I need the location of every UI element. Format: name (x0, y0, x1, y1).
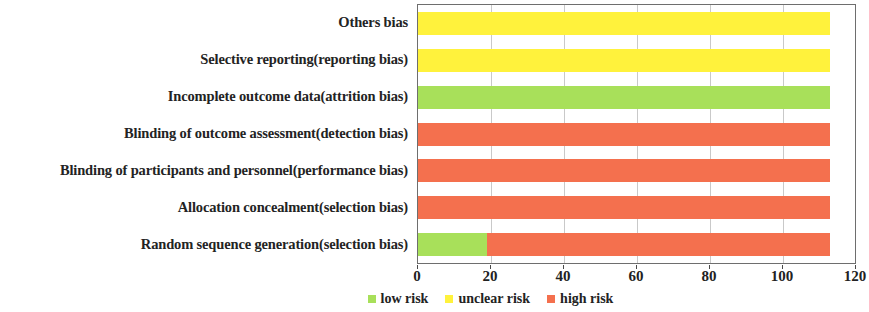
y-axis-label: Others bias (0, 15, 408, 29)
y-axis-label: Allocation concealment(selection bias) (0, 200, 408, 214)
bar-segment-low-risk (418, 233, 487, 256)
bar-segment-high-risk (418, 123, 830, 146)
bar-segment-unclear-risk (418, 49, 830, 72)
bar-row (418, 233, 855, 256)
y-axis-label: Selective reporting(reporting bias) (0, 52, 408, 66)
legend-label: low risk (381, 292, 429, 306)
legend-swatch-icon (547, 295, 555, 303)
y-axis-label: Incomplete outcome data(attrition bias) (0, 89, 408, 103)
bar-segment-low-risk (418, 86, 830, 109)
y-axis-label: Blinding of outcome assessment(detection… (0, 126, 408, 140)
bar-row (418, 196, 855, 219)
legend-swatch-icon (368, 295, 376, 303)
legend-swatch-icon (445, 295, 453, 303)
bar-segment-high-risk (418, 159, 830, 182)
bar-series-container (418, 5, 855, 263)
x-axis-tick-label: 40 (556, 268, 571, 284)
plot-area (417, 4, 856, 264)
legend-label: high risk (560, 292, 613, 306)
x-axis-tick-label: 0 (413, 268, 421, 284)
bar-row (418, 86, 855, 109)
y-axis-category-labels: Random sequence generation(selection bia… (0, 4, 412, 264)
x-axis-tick-label: 100 (771, 268, 794, 284)
x-axis-tick-label: 80 (702, 268, 717, 284)
legend-item: high risk (547, 292, 613, 306)
y-axis-label: Random sequence generation(selection bia… (0, 237, 408, 251)
risk-of-bias-chart: Random sequence generation(selection bia… (0, 0, 869, 312)
x-axis-tick-label: 60 (629, 268, 644, 284)
legend-item: low risk (368, 292, 429, 306)
legend-label: unclear risk (458, 292, 530, 306)
bar-segment-unclear-risk (418, 12, 830, 35)
x-axis-tick-label: 120 (844, 268, 867, 284)
bar-row (418, 12, 855, 35)
bar-row (418, 49, 855, 72)
x-axis-tick-label: 20 (483, 268, 498, 284)
chart-legend: low riskunclear riskhigh risk (0, 289, 869, 309)
x-axis: 020406080100120 (417, 265, 856, 287)
bar-row (418, 159, 855, 182)
y-axis-label: Blinding of participants and personnel(p… (0, 163, 408, 177)
legend-item: unclear risk (445, 292, 530, 306)
bar-segment-high-risk (418, 196, 830, 219)
bar-row (418, 123, 855, 146)
bar-segment-high-risk (487, 233, 830, 256)
